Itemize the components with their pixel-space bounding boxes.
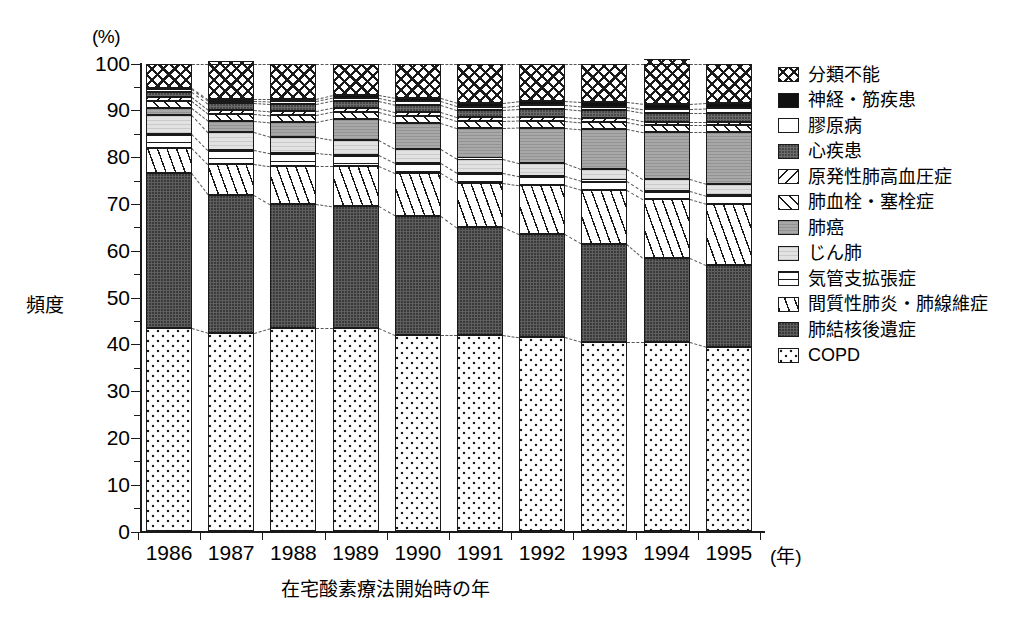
- bar-segment[interactable]: [457, 227, 503, 335]
- bar-segment[interactable]: [270, 101, 316, 104]
- bar-segment[interactable]: [270, 204, 316, 328]
- legend-item-pneumoconiosis[interactable]: じん肺: [778, 241, 988, 267]
- legend-item-embolism[interactable]: 肺血栓・塞栓症: [778, 190, 988, 216]
- bar-segment[interactable]: [644, 179, 690, 191]
- bar-segment[interactable]: [270, 137, 316, 153]
- bar-segment[interactable]: [208, 99, 254, 101]
- bar-segment[interactable]: [519, 234, 565, 337]
- bar-segment[interactable]: [395, 101, 441, 104]
- bar-segment[interactable]: [146, 88, 192, 90]
- stacked-bar[interactable]: [208, 64, 254, 532]
- legend-item-heart[interactable]: 心疾患: [778, 139, 988, 165]
- bar-segment[interactable]: [644, 125, 690, 132]
- bar-segment[interactable]: [457, 117, 503, 121]
- bar-segment[interactable]: [146, 173, 192, 327]
- bar-segment[interactable]: [457, 121, 503, 128]
- bar-segment[interactable]: [270, 328, 316, 532]
- bar-segment[interactable]: [208, 195, 254, 333]
- bar-segment[interactable]: [644, 109, 690, 113]
- legend-item-collagen[interactable]: 膠原病: [778, 113, 988, 139]
- bar-segment[interactable]: [146, 148, 192, 174]
- legend-item-unclassified[interactable]: 分類不能: [778, 62, 988, 88]
- bar-segment[interactable]: [395, 173, 441, 215]
- stacked-bar[interactable]: [581, 64, 627, 532]
- legend-item-lung_cancer[interactable]: 肺癌: [778, 215, 988, 241]
- bar-segment[interactable]: [706, 64, 752, 103]
- bar-segment[interactable]: [706, 108, 752, 113]
- bar-segment[interactable]: [270, 64, 316, 100]
- legend-item-tb_sequelae[interactable]: 肺結核後遺症: [778, 317, 988, 343]
- bar-segment[interactable]: [146, 108, 192, 115]
- bar-segment[interactable]: [208, 110, 254, 114]
- legend-item-copd[interactable]: COPD: [778, 343, 988, 369]
- bar-segment[interactable]: [706, 132, 752, 183]
- bar-segment[interactable]: [519, 105, 565, 109]
- bar-segment[interactable]: [644, 59, 690, 104]
- bar-segment[interactable]: [644, 104, 690, 109]
- bar-segment[interactable]: [519, 117, 565, 121]
- bar-segment[interactable]: [706, 265, 752, 347]
- stacked-bar[interactable]: [146, 64, 192, 532]
- bar-segment[interactable]: [333, 112, 379, 119]
- bar-segment[interactable]: [208, 103, 254, 110]
- bar-segment[interactable]: [208, 101, 254, 103]
- bar-segment[interactable]: [706, 125, 752, 132]
- bar-segment[interactable]: [208, 61, 254, 99]
- bar-segment[interactable]: [581, 169, 627, 181]
- bar-segment[interactable]: [457, 335, 503, 532]
- bar-segment[interactable]: [457, 107, 503, 110]
- bar-segment[interactable]: [146, 64, 192, 88]
- bar-segment[interactable]: [581, 122, 627, 129]
- bar-segment[interactable]: [270, 122, 316, 137]
- bar-segment[interactable]: [333, 155, 379, 167]
- bar-segment[interactable]: [519, 109, 565, 117]
- bar-segment[interactable]: [706, 347, 752, 532]
- bar-segment[interactable]: [395, 123, 441, 149]
- bar-segment[interactable]: [457, 183, 503, 227]
- bar-segment[interactable]: [581, 107, 627, 111]
- bar-segment[interactable]: [146, 328, 192, 532]
- bar-segment[interactable]: [519, 121, 565, 128]
- bar-segment[interactable]: [457, 110, 503, 117]
- bar-segment[interactable]: [706, 195, 752, 203]
- bar-segment[interactable]: [146, 92, 192, 98]
- bar-segment[interactable]: [395, 163, 441, 174]
- bar-segment[interactable]: [208, 164, 254, 194]
- bar-segment[interactable]: [519, 176, 565, 185]
- bar-segment[interactable]: [333, 166, 379, 206]
- bar-segment[interactable]: [644, 191, 690, 199]
- bar-segment[interactable]: [270, 104, 316, 111]
- bar-segment[interactable]: [146, 101, 192, 108]
- bar-segment[interactable]: [581, 118, 627, 122]
- bar-segment[interactable]: [519, 64, 565, 101]
- bar-segment[interactable]: [581, 181, 627, 190]
- bar-segment[interactable]: [333, 98, 379, 101]
- bar-segment[interactable]: [395, 335, 441, 532]
- bar-segment[interactable]: [519, 128, 565, 163]
- bar-segment[interactable]: [581, 129, 627, 169]
- bar-segment[interactable]: [395, 98, 441, 101]
- bar-segment[interactable]: [208, 150, 254, 164]
- bar-segment[interactable]: [706, 103, 752, 109]
- bar-segment[interactable]: [395, 216, 441, 335]
- bar-segment[interactable]: [333, 64, 379, 96]
- bar-segment[interactable]: [208, 132, 254, 150]
- bar-segment[interactable]: [270, 166, 316, 203]
- bar-segment[interactable]: [333, 328, 379, 532]
- bar-segment[interactable]: [581, 102, 627, 107]
- stacked-bar[interactable]: [457, 64, 503, 532]
- bar-segment[interactable]: [208, 121, 254, 133]
- stacked-bar[interactable]: [395, 64, 441, 532]
- legend-item-neuromuscular[interactable]: 神経・筋疾患: [778, 88, 988, 114]
- stacked-bar[interactable]: [644, 64, 690, 532]
- bar-segment[interactable]: [333, 119, 379, 140]
- bar-segment[interactable]: [581, 190, 627, 244]
- bar-segment[interactable]: [270, 99, 316, 101]
- bar-segment[interactable]: [581, 342, 627, 532]
- bar-segment[interactable]: [519, 337, 565, 531]
- bar-segment[interactable]: [519, 185, 565, 234]
- bar-segment[interactable]: [457, 103, 503, 107]
- bar-segment[interactable]: [333, 95, 379, 98]
- bar-segment[interactable]: [519, 163, 565, 176]
- stacked-bar[interactable]: [333, 64, 379, 532]
